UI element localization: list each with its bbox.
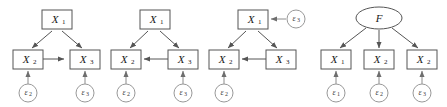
edge-p4-f-to-x3: [392, 28, 418, 48]
node-sublabel-p3-e2: 2: [225, 91, 228, 97]
panel-4: F X 1 X 2 X 2 ε 1: [321, 7, 437, 102]
diagram-canvas: X 1 X 2 X 3 ε 2: [0, 0, 447, 107]
node-sublabel-p1-e3: 3: [86, 91, 89, 97]
node-sublabel-p1-x1: 1: [62, 18, 66, 26]
node-p1-e2: ε 2: [19, 84, 37, 102]
node-p4-e3: ε 3: [413, 84, 431, 102]
node-label-p1-x1: X: [51, 13, 60, 25]
node-sublabel-p4-x3: 2: [427, 58, 431, 66]
node-p4-x1: X 1: [321, 50, 351, 69]
node-p4-f: F: [356, 7, 402, 29]
node-label-p2-x1: X: [149, 13, 158, 25]
node-label-p3-x3: X: [275, 53, 284, 65]
node-sublabel-p4-e3: 3: [423, 91, 426, 97]
node-sublabel-p1-x2: 2: [33, 58, 37, 66]
node-label-p4-x3: X: [416, 53, 425, 65]
node-p1-x2: X 2: [13, 50, 43, 69]
node-p3-x2: X 2: [209, 50, 239, 69]
node-p2-x1: X 1: [140, 10, 170, 29]
node-sublabel-p3-x3: 3: [286, 58, 290, 66]
node-label-p3-x1: X: [247, 13, 256, 25]
node-label-p2-x2: X: [120, 53, 129, 65]
node-label-p4-f: F: [375, 12, 383, 24]
edge-p2-x1-to-x3: [160, 31, 179, 48]
panel-3: X 1 ε 3 X 2 X 3 ε 2: [209, 10, 305, 102]
node-label-p4-x1: X: [330, 53, 339, 65]
edge-p4-f-to-x1: [340, 28, 366, 48]
node-p2-e3: ε 3: [174, 84, 192, 102]
edge-p1-x1-to-x3: [62, 31, 82, 48]
sem-path-diagram-figure: X 1 X 2 X 3 ε 2: [0, 0, 447, 107]
node-sublabel-p2-x2: 2: [131, 58, 135, 66]
node-p2-x2: X 2: [111, 50, 141, 69]
edge-p2-x1-to-x2: [130, 31, 148, 48]
node-p3-e2: ε 2: [215, 84, 233, 102]
node-sublabel-p2-x1: 1: [160, 18, 164, 26]
node-p2-x3: X 3: [168, 50, 198, 69]
node-label-p1-x2: X: [22, 53, 31, 65]
node-p2-e2: ε 2: [117, 84, 135, 102]
node-p4-e1: ε 1: [327, 84, 345, 102]
node-p4-x2: X 2: [364, 50, 394, 69]
node-p4-e2: ε 2: [370, 84, 388, 102]
node-p3-e3: ε 3: [287, 10, 305, 28]
node-p1-x1: X 1: [42, 10, 72, 29]
node-sublabel-p3-x2: 2: [229, 58, 233, 66]
node-label-p2-x3: X: [177, 53, 186, 65]
node-label-p3-x2: X: [218, 53, 227, 65]
node-p3-x1: X 1: [238, 10, 268, 29]
node-sublabel-p2-e2: 2: [127, 91, 130, 97]
node-p1-x3: X 3: [70, 50, 100, 69]
node-label-p4-x2: X: [373, 53, 382, 65]
node-sublabel-p2-x3: 3: [188, 58, 192, 66]
node-p4-x3: X 2: [407, 50, 437, 69]
node-sublabel-p2-e3: 3: [184, 91, 187, 97]
node-sublabel-p4-e1: 1: [337, 91, 340, 97]
node-sublabel-p4-e2: 2: [380, 91, 383, 97]
node-sublabel-p3-e3: 3: [297, 17, 300, 23]
edge-p3-x1-to-x2: [228, 31, 246, 48]
edge-p3-x1-to-x3: [258, 31, 277, 48]
panel-2: X 1 X 2 X 3 ε 2 ε 3: [111, 10, 198, 102]
node-sublabel-p3-x1: 1: [258, 18, 262, 26]
node-sublabel-p4-x1: 1: [341, 58, 345, 66]
node-p3-x3: X 3: [266, 50, 296, 69]
node-p1-e3: ε 3: [76, 84, 94, 102]
panel-1: X 1 X 2 X 3 ε 2: [13, 10, 100, 102]
edge-p1-x1-to-x2: [32, 31, 52, 48]
node-sublabel-p1-e2: 2: [29, 91, 32, 97]
node-sublabel-p1-x3: 3: [90, 58, 94, 66]
node-sublabel-p4-x2: 2: [384, 58, 388, 66]
node-label-p1-x3: X: [79, 53, 88, 65]
